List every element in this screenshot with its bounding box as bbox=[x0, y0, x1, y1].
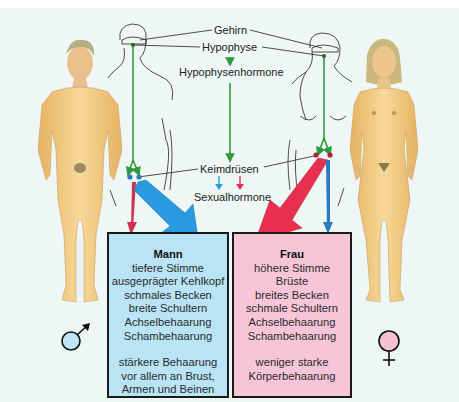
male-trait: Schambehaarung bbox=[109, 330, 227, 344]
female-trait: Achselbehaarung bbox=[234, 316, 350, 330]
female-title: Frau bbox=[234, 248, 350, 262]
label-gonads: Keimdrüsen bbox=[199, 163, 260, 175]
female-trait: schmale Schultern bbox=[234, 302, 350, 316]
male-title: Mann bbox=[109, 248, 227, 262]
label-sex-hormones: Sexualhormone bbox=[193, 191, 272, 203]
female-trait: Brüste bbox=[234, 275, 350, 289]
diagram-canvas: Gehirn Hypophyse Hypophysenhormone Keimd… bbox=[0, 8, 459, 402]
male-extra: Armen und Beinen bbox=[109, 383, 227, 397]
female-trait: Schambehaarung bbox=[234, 330, 350, 344]
male-trait: ausgeprägter Kehlkopf bbox=[109, 275, 227, 289]
male-trait: tiefere Stimme bbox=[109, 262, 227, 276]
sex-hormone-arrows bbox=[215, 176, 244, 190]
female-trait: breites Becken bbox=[234, 289, 350, 303]
female-figure-illustration bbox=[350, 39, 418, 302]
female-traits-box: Frau höhere Stimme Brüste breites Becken… bbox=[232, 232, 352, 398]
male-symbol-icon bbox=[62, 323, 90, 350]
male-traits-box: Mann tiefere Stimme ausgeprägter Kehlkop… bbox=[107, 232, 229, 398]
male-extra: vor allem an Brust, bbox=[109, 370, 227, 384]
male-trait: breite Schultern bbox=[109, 302, 227, 316]
female-trait: höhere Stimme bbox=[234, 262, 350, 276]
female-extra: weniger starke bbox=[234, 356, 350, 370]
male-trait: schmales Becken bbox=[109, 289, 227, 303]
male-extra: stärkere Behaarung bbox=[109, 356, 227, 370]
hormone-pathways bbox=[129, 45, 329, 172]
label-pituitary-hormones: Hypophysenhormone bbox=[178, 66, 285, 78]
label-pituitary: Hypophyse bbox=[201, 41, 258, 53]
male-trait: Achselbehaarung bbox=[109, 316, 227, 330]
label-brain: Gehirn bbox=[213, 24, 248, 36]
female-extra: Körperbehaarung bbox=[234, 370, 350, 384]
female-symbol-icon bbox=[379, 331, 399, 366]
